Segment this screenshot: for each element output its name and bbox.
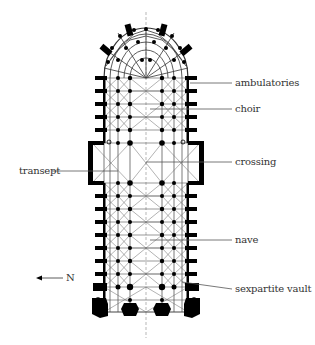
- label-transept: transept: [19, 165, 60, 177]
- compass-north-label: N: [66, 272, 75, 284]
- label-crossing: crossing: [235, 156, 276, 168]
- label-ambulatories: ambulatories: [235, 77, 299, 89]
- label-nave: nave: [235, 234, 258, 246]
- label-sexpartite-vault: sexpartite vault: [235, 283, 311, 295]
- apse: [104, 28, 188, 78]
- label-choir: choir: [235, 103, 260, 115]
- arrow-left-icon: [36, 276, 63, 281]
